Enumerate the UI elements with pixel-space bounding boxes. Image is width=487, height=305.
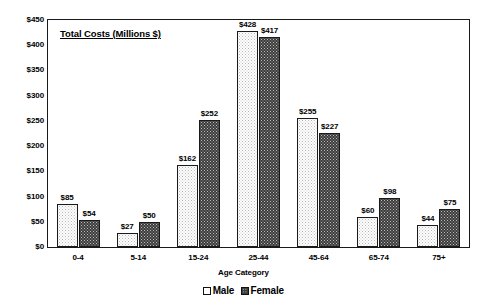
legend-swatch-female-icon — [241, 287, 249, 295]
bar-value-label: $98 — [373, 188, 406, 196]
bars-layer: $85$54$27$50$162$252$428$417$255$227$60$… — [48, 20, 469, 247]
y-axis-tick-label: $150 — [0, 167, 44, 175]
y-axis-tick-label: $400 — [0, 41, 44, 49]
bar-value-label: $255 — [291, 108, 324, 116]
y-axis-tick-label: $0 — [0, 243, 44, 251]
bar-male-65-74 — [357, 217, 378, 247]
bar-female-25-44 — [259, 37, 280, 247]
bar-value-label: $54 — [73, 210, 106, 218]
bar-female-75+ — [439, 209, 460, 247]
x-axis-tick-labels: 0-45-1415-2425-4445-6465-7475+ — [48, 253, 469, 267]
legend-label-male: Male — [213, 286, 234, 296]
legend-label-female: Female — [251, 286, 284, 296]
legend-item-male: Male — [203, 286, 234, 296]
bar-value-label: $50 — [133, 212, 166, 220]
bar-male-75+ — [417, 225, 438, 247]
x-axis-title: Age Category — [0, 268, 487, 277]
legend: Male Female — [0, 286, 487, 296]
bar-chart: $0$50$100$150$200$250$300$350$400$450 To… — [0, 0, 487, 305]
y-axis-tick-label: $300 — [0, 92, 44, 100]
y-axis-tick-label: $200 — [0, 142, 44, 150]
x-axis-tick-label: 0-4 — [48, 253, 108, 262]
y-axis-tick-label: $350 — [0, 66, 44, 74]
legend-swatch-male-icon — [203, 287, 211, 295]
y-axis-tick-label: $100 — [0, 193, 44, 201]
y-axis-tick-label: $50 — [0, 218, 44, 226]
bar-value-label: $75 — [433, 199, 466, 207]
bar-female-65-74 — [379, 198, 400, 247]
bar-female-0-4 — [79, 220, 100, 247]
x-axis-tick-label: 25-44 — [228, 253, 288, 262]
y-axis: $0$50$100$150$200$250$300$350$400$450 — [0, 0, 44, 305]
y-axis-tick-label: $450 — [0, 16, 44, 24]
bar-male-5-14 — [117, 233, 138, 247]
bar-value-label: $417 — [253, 27, 286, 35]
y-axis-tick-label: $250 — [0, 117, 44, 125]
bar-male-15-24 — [177, 165, 198, 247]
bar-male-45-64 — [297, 118, 318, 247]
x-axis-tick-label: 15-24 — [168, 253, 228, 262]
x-axis-tick-label: 5-14 — [108, 253, 168, 262]
bar-female-45-64 — [319, 133, 340, 248]
bar-male-25-44 — [237, 31, 258, 247]
bar-value-label: $227 — [313, 123, 346, 131]
x-axis-tick-label: 65-74 — [349, 253, 409, 262]
bar-female-5-14 — [139, 222, 160, 247]
legend-item-female: Female — [241, 286, 284, 296]
x-axis-tick-label: 45-64 — [289, 253, 349, 262]
bar-value-label: $252 — [193, 110, 226, 118]
bar-value-label: $85 — [51, 194, 84, 202]
bar-female-15-24 — [199, 120, 220, 247]
x-axis-tick-label: 75+ — [409, 253, 469, 262]
